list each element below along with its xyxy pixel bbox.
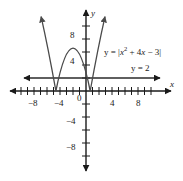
x-tick-label-4: 4 — [110, 99, 115, 108]
line-equation-label: y = 2 — [131, 64, 150, 73]
curve-equation-middle: + 4 — [127, 47, 141, 57]
curve-equation-lhs: y = — [104, 47, 118, 57]
curve-reflected-arch — [56, 48, 90, 91]
figure-graph-absolute-value-parabola: −8 −4 4 8 0 8 4 −4 −8 y x y = |x2 + 4x −… — [0, 0, 183, 181]
plot-svg — [0, 0, 183, 181]
curve-left-arm — [41, 17, 56, 91]
x-tick-label-8: 8 — [136, 99, 141, 108]
x-axis-label: x — [170, 80, 174, 89]
curve-equation-label: y = |x2 + 4x − 3| — [104, 48, 161, 57]
x-tick-label-minus-4: −4 — [54, 99, 64, 108]
y-axis-label: y — [91, 9, 95, 18]
origin-label: 0 — [77, 94, 82, 103]
y-tick-label-minus-8: −8 — [66, 143, 76, 152]
curve-equation-bar-close: | — [159, 48, 161, 57]
x-tick-label-minus-8: −8 — [28, 99, 38, 108]
curve-equation-tail: − 3 — [145, 47, 159, 57]
curve-right-arm — [90, 17, 105, 91]
y-tick-label-minus-4: −4 — [66, 117, 76, 126]
y-tick-label-4: 4 — [70, 57, 75, 66]
y-tick-label-8: 8 — [70, 31, 75, 40]
